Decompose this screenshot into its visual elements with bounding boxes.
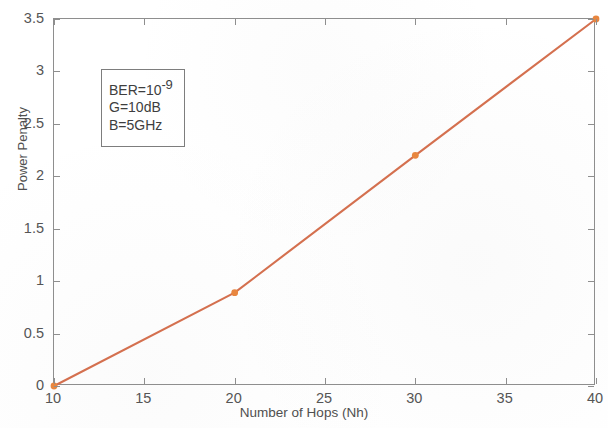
parameter-annotation-box: BER=10-9 G=10dB B=5GHz: [101, 69, 185, 147]
x-tick-40: [596, 378, 597, 384]
x-tick-35: [506, 378, 507, 384]
y-tick-2.5: [54, 124, 60, 125]
y-tick-right-2.5: [588, 124, 594, 125]
x-tick-20: [235, 378, 236, 384]
y-tick-right-3: [588, 71, 594, 72]
y-tick-right-1: [588, 281, 594, 282]
plot-axes-box: BER=10-9 G=10dB B=5GHz: [53, 18, 595, 385]
y-axis-title: Power Penalty: [15, 107, 30, 191]
y-tick-right-0: [588, 386, 594, 387]
x-tick-label-15: 15: [135, 390, 151, 406]
annotation-line-ber: BER=10-9: [109, 76, 184, 99]
x-tick-25: [325, 378, 326, 384]
annotation-line-gain: G=10dB: [109, 99, 184, 117]
x-tick-top-35: [506, 19, 507, 25]
annotation-line-bandwidth: B=5GHz: [109, 117, 184, 135]
y-tick-2: [54, 176, 60, 177]
y-tick-1.5: [54, 229, 60, 230]
y-tick-right-0.5: [588, 334, 594, 335]
y-tick-0: [54, 386, 60, 387]
annotation-ber-exponent: -9: [162, 77, 173, 92]
data-point-20: [231, 289, 238, 296]
x-tick-top-40: [596, 19, 597, 25]
y-tick-right-3.5: [588, 19, 594, 20]
x-tick-top-20: [235, 19, 236, 25]
x-axis-title: Number of Hops (Nh): [0, 405, 608, 420]
y-tick-0.5: [54, 334, 60, 335]
x-tick-top-15: [144, 19, 145, 25]
y-tick-right-2: [588, 176, 594, 177]
annotation-ber-base: BER=10: [109, 82, 162, 98]
x-tick-label-20: 20: [226, 390, 242, 406]
x-tick-top-30: [415, 19, 416, 25]
y-tick-label-3.5: 3.5: [0, 10, 44, 26]
x-tick-label-25: 25: [316, 390, 332, 406]
x-tick-30: [415, 378, 416, 384]
x-tick-label-35: 35: [497, 390, 513, 406]
y-tick-right-1.5: [588, 229, 594, 230]
y-tick-3.5: [54, 19, 60, 20]
y-axis-title-wrapper: Power Penalty: [13, 39, 31, 259]
x-tick-label-10: 10: [45, 390, 61, 406]
x-tick-label-30: 30: [406, 390, 422, 406]
y-tick-3: [54, 71, 60, 72]
y-tick-1: [54, 281, 60, 282]
x-tick-label-40: 40: [587, 390, 603, 406]
x-tick-10: [54, 378, 55, 384]
y-tick-label-0.5: 0.5: [0, 325, 44, 341]
data-point-30: [412, 152, 419, 159]
x-tick-15: [144, 378, 145, 384]
figure-canvas: BER=10-9 G=10dB B=5GHz 10152025303540 00…: [0, 0, 608, 428]
y-tick-label-0: 0: [0, 377, 44, 393]
x-tick-top-25: [325, 19, 326, 25]
y-tick-label-1: 1: [0, 272, 44, 288]
